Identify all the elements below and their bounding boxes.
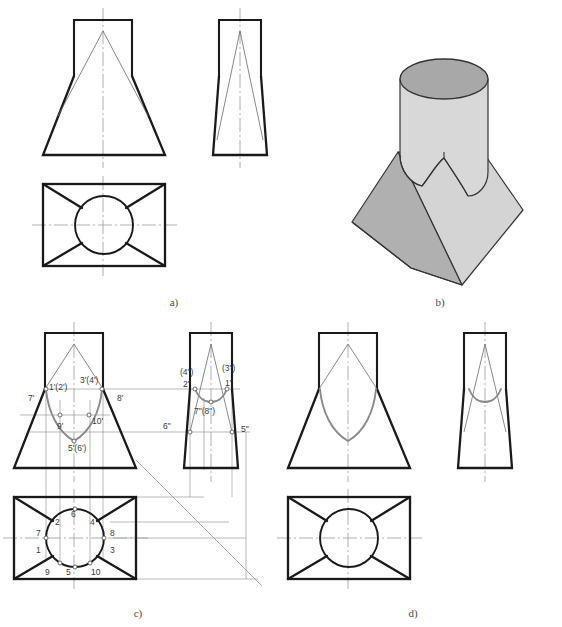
label-1-dprime: 1"	[225, 378, 233, 388]
point-marker-7	[44, 536, 48, 540]
label-6-dprime: 6"	[163, 421, 171, 431]
technical-drawing-figure: a) b)	[0, 0, 562, 627]
label-2-dprime: 2"	[183, 379, 191, 389]
label-5-6-prime: 5'(6')	[68, 443, 87, 453]
label-6: 6	[71, 509, 76, 519]
label-10-prime: 10'	[92, 416, 103, 426]
point-marker-6pp	[188, 430, 192, 434]
label-5-dprime: 5"	[241, 424, 249, 434]
panel-c-caption: c)	[134, 607, 143, 620]
point-marker-8	[102, 536, 106, 540]
label-4: 4	[90, 517, 95, 527]
point-marker-10	[88, 561, 92, 565]
label-3-dprime: (3")	[222, 363, 236, 373]
point-marker-10p	[87, 413, 91, 417]
label-9: 9	[45, 567, 50, 577]
label-7-8-dprime: 7"(8")	[194, 406, 215, 416]
label-7-prime: 7'	[28, 393, 35, 403]
panel-d-caption: d)	[408, 607, 418, 620]
label-5: 5	[66, 567, 71, 577]
point-marker-9	[58, 561, 62, 565]
label-3-4-prime: 3'(4')	[80, 375, 99, 385]
point-marker-7pp	[209, 400, 213, 404]
point-marker-5	[73, 565, 77, 569]
panel-a-caption: a)	[170, 296, 179, 309]
point-marker-1p	[44, 387, 48, 391]
label-1-2-prime: 1'(2')	[49, 382, 68, 392]
label-9-prime: 9'	[57, 421, 64, 431]
cylinder-top-ellipse	[400, 59, 488, 99]
panel-b-caption: b)	[435, 296, 445, 309]
point-marker-2pp	[193, 387, 197, 391]
point-marker-5pp	[230, 430, 234, 434]
label-7: 7	[36, 528, 41, 538]
label-2: 2	[55, 517, 60, 527]
label-1: 1	[36, 545, 41, 555]
point-marker-9p	[58, 413, 62, 417]
drawing-canvas: a) b)	[0, 0, 562, 627]
label-8: 8	[110, 528, 115, 538]
point-marker-3p	[100, 387, 104, 391]
label-8-prime: 8'	[117, 393, 124, 403]
label-4-dprime: (4")	[180, 367, 194, 377]
label-10: 10	[91, 567, 101, 577]
label-3: 3	[110, 545, 115, 555]
